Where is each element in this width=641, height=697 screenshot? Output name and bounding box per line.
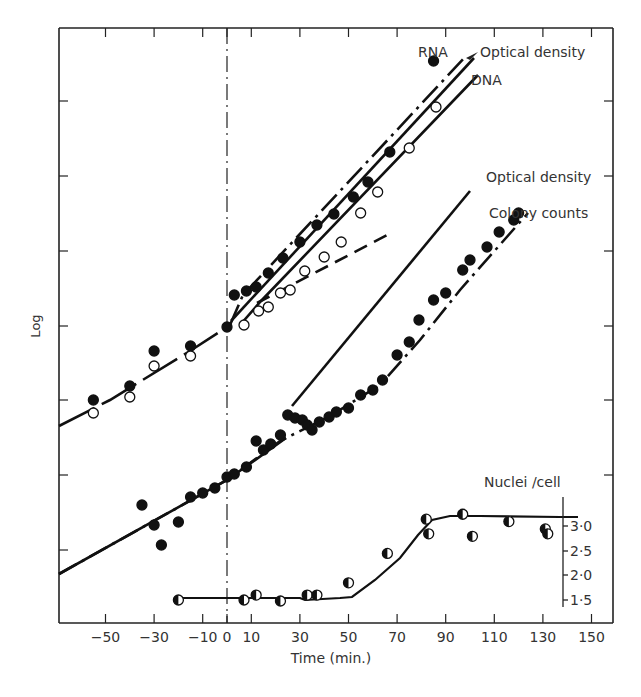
filled-circle-marker <box>251 436 261 446</box>
filled-circle-marker <box>278 253 288 263</box>
filled-circle-marker <box>465 255 475 265</box>
filled-circle-marker <box>414 315 424 325</box>
open-circle-marker <box>88 408 98 418</box>
filled-circle-marker <box>186 492 196 502</box>
nuclei-per-cell-curve <box>180 516 578 600</box>
filled-circle-marker <box>88 395 98 405</box>
filled-circle-marker <box>210 483 220 493</box>
filled-circle-marker <box>348 192 358 202</box>
filled-circle-marker <box>266 439 276 449</box>
filled-circle-marker <box>331 407 341 417</box>
open-circle-marker <box>285 285 295 295</box>
filled-circle-marker <box>156 540 166 550</box>
nuclei-secondary-axis <box>563 497 568 607</box>
curves <box>59 56 578 600</box>
filled-circle-marker <box>356 390 366 400</box>
filled-circle-marker <box>149 520 159 530</box>
filled-circle-marker <box>307 425 317 435</box>
filled-circle-marker <box>173 517 183 527</box>
open-circle-marker <box>186 351 196 361</box>
filled-circle-marker <box>344 403 354 413</box>
open-circle-marker <box>239 320 249 330</box>
filled-circle-marker <box>494 227 504 237</box>
x-tick-label: 110 <box>481 629 508 645</box>
filled-circle-marker <box>137 500 147 510</box>
x-tick-label: −10 <box>188 629 218 645</box>
optical-density-upper-line <box>231 58 474 321</box>
open-circle-marker <box>336 237 346 247</box>
x-tick-label: 30 <box>291 629 309 645</box>
open-circle-marker <box>300 266 310 276</box>
filled-circle-marker <box>392 350 402 360</box>
data-points <box>88 56 552 606</box>
x-tick-label: 90 <box>437 629 455 645</box>
x-tick-label: 10 <box>242 629 260 645</box>
annotation-optical-density-middle: Optical density <box>486 169 591 185</box>
filled-circle-marker <box>314 417 324 427</box>
filled-circle-marker <box>404 337 414 347</box>
x-tick-label: 150 <box>578 629 605 645</box>
open-circle-marker <box>431 102 441 112</box>
open-circle-marker <box>263 302 273 312</box>
filled-circle-marker <box>441 288 451 298</box>
filled-circle-marker <box>149 346 159 356</box>
filled-circle-marker <box>295 237 305 247</box>
filled-circle-marker <box>368 385 378 395</box>
x-axis-tick-labels: −50−30−1001030507090110130150 <box>91 629 605 645</box>
annotation-dna: DNA <box>471 72 502 88</box>
open-circle-marker <box>254 306 264 316</box>
x-axis-ticks <box>106 28 592 623</box>
open-circle-marker <box>404 143 414 153</box>
open-circle-marker <box>275 288 285 298</box>
rna-dna-preshift-line <box>59 327 227 426</box>
nuclei-axis-labels: 3·0 2·5 2·0 1·5 <box>570 518 592 608</box>
annotation-rna: RNA <box>418 44 448 60</box>
filled-circle-marker <box>241 462 251 472</box>
filled-circle-marker <box>458 265 468 275</box>
svg-text:2·5: 2·5 <box>570 543 592 559</box>
open-circle-marker <box>373 187 383 197</box>
filled-circle-marker <box>363 177 373 187</box>
open-circle-marker <box>149 361 159 371</box>
filled-circle-marker <box>429 295 439 305</box>
dna-curve <box>240 75 478 325</box>
svg-text:2·0: 2·0 <box>570 567 592 583</box>
filled-circle-marker <box>229 290 239 300</box>
filled-circle-marker <box>125 381 135 391</box>
chart-canvas: −50−30−1001030507090110130150 Time (min.… <box>0 0 641 697</box>
x-tick-label: 50 <box>340 629 358 645</box>
filled-circle-marker <box>482 242 492 252</box>
filled-circle-marker <box>275 430 285 440</box>
filled-circle-marker <box>198 488 208 498</box>
filled-circle-marker <box>229 469 239 479</box>
filled-circle-marker <box>385 147 395 157</box>
open-circle-marker <box>319 252 329 262</box>
filled-circle-marker <box>241 286 251 296</box>
filled-circle-marker <box>378 375 388 385</box>
open-circle-marker <box>125 392 135 402</box>
x-tick-label: 0 <box>223 629 232 645</box>
x-axis-label: Time (min.) <box>290 650 372 666</box>
filled-circle-marker <box>329 209 339 219</box>
filled-circle-marker <box>251 282 261 292</box>
open-circle-marker <box>356 208 366 218</box>
annotation-colony-counts: Colony counts <box>489 205 588 221</box>
filled-circle-marker <box>312 220 322 230</box>
x-tick-label: −30 <box>139 629 169 645</box>
filled-circle-marker <box>263 268 273 278</box>
x-tick-label: −50 <box>91 629 121 645</box>
plot-frame <box>59 28 613 623</box>
filled-circle-marker <box>222 322 232 332</box>
svg-text:1·5: 1·5 <box>570 592 592 608</box>
annotation-nuclei-per-cell: Nuclei /cell <box>484 474 561 490</box>
y-axis-label: Log <box>28 314 43 337</box>
x-tick-label: 130 <box>530 629 557 645</box>
x-tick-label: 70 <box>388 629 406 645</box>
filled-circle-marker <box>186 341 196 351</box>
annotation-optical-density-top: Optical density <box>480 44 585 60</box>
svg-text:3·0: 3·0 <box>570 518 592 534</box>
